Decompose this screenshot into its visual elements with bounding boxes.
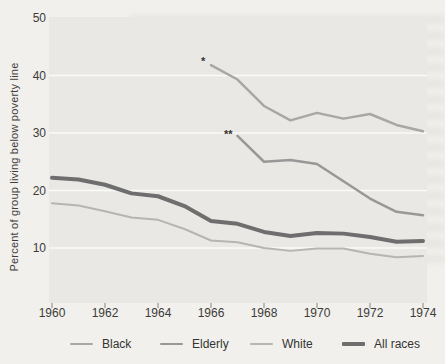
x-tick-label-1972: 1972: [357, 306, 384, 320]
plot-area: [49, 17, 427, 303]
y-tick-label-20: 20: [33, 184, 47, 198]
poverty-rate-figure: 5040302010196019621964196619681970197219…: [0, 0, 445, 364]
x-tick-label-1960: 1960: [39, 306, 66, 320]
y-axis-title: Percent of group living below poverty li…: [8, 63, 20, 272]
x-tick-label-1964: 1964: [145, 306, 172, 320]
y-tick-label-40: 40: [33, 69, 47, 83]
y-tick-label-10: 10: [33, 241, 47, 255]
annotation-double-asterisk: **: [224, 128, 233, 140]
y-tick-label-50: 50: [33, 11, 47, 25]
x-tick-label-1966: 1966: [198, 306, 225, 320]
x-tick-label-1962: 1962: [92, 306, 119, 320]
x-tick-label-1970: 1970: [304, 306, 331, 320]
x-tick-label-1974: 1974: [410, 306, 437, 320]
chart-svg: 5040302010196019621964196619681970197219…: [0, 0, 445, 364]
annotation-asterisk: *: [201, 55, 206, 67]
y-tick-label-30: 30: [33, 126, 47, 140]
x-tick-label-1968: 1968: [251, 306, 278, 320]
